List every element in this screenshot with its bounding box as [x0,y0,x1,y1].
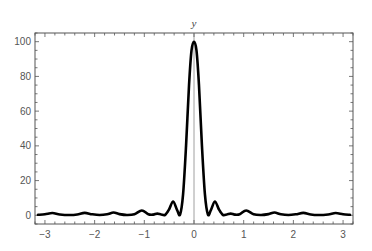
line-chart: −3−2−10123020406080100 y [0,0,372,251]
y-tick-label: 60 [20,106,32,117]
y-tick-label: 0 [25,210,31,221]
y-tick-label: 20 [20,175,32,186]
x-tick-label: 3 [340,229,346,240]
axes [35,33,353,224]
x-tick-label: 1 [241,229,247,240]
chart-canvas: −3−2−10123020406080100 y [0,0,372,251]
y-tick-label: 80 [20,71,32,82]
x-tick-label: −3 [39,229,51,240]
y-axis-label: y [191,17,197,29]
x-tick-label: −1 [139,229,151,240]
y-tick-label: 40 [20,140,32,151]
y-tick-label: 100 [14,36,31,47]
x-tick-label: 2 [291,229,297,240]
x-tick-label: 0 [191,229,197,240]
x-tick-label: −2 [89,229,101,240]
